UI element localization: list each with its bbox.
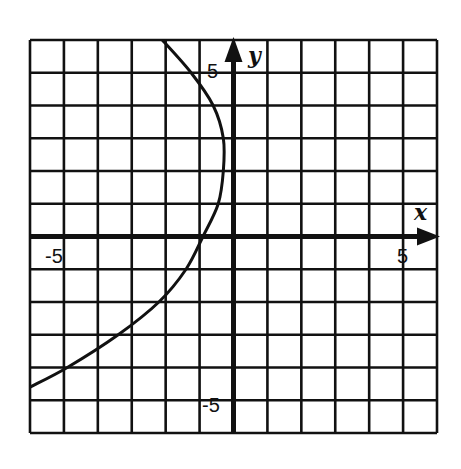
y-tick-label-pos5: 5	[207, 60, 218, 82]
y-tick-label-neg5: -5	[202, 394, 220, 416]
x-tick-label-pos5: 5	[397, 245, 408, 267]
x-tick-label-neg5: -5	[45, 245, 63, 267]
coordinate-plane: -5 5 5 -5 y x	[0, 0, 461, 469]
y-axis-label: y	[247, 42, 263, 68]
x-axis-label: x	[413, 199, 428, 225]
